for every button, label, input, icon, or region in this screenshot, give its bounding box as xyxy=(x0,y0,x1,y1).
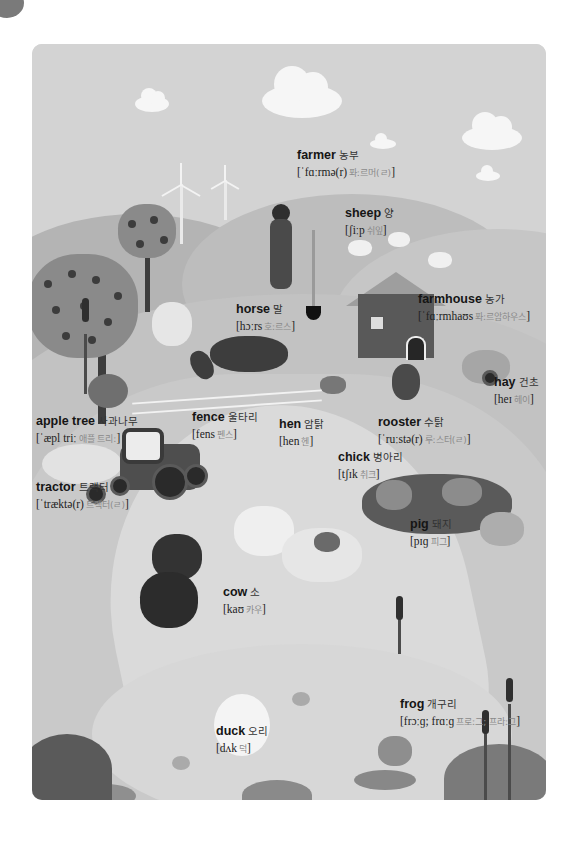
label-farmer: farmer농부 [ˈfɑːrmə(r)퐈ː르머(ㄹ)] xyxy=(297,146,395,178)
label-rooster: rooster수탉 [ˈruːstə(r)루ː스터(ㄹ)] xyxy=(378,413,471,445)
korean-meaning: 암탉 xyxy=(304,418,324,430)
korean-meaning: 농가 xyxy=(485,293,505,305)
word: hay xyxy=(494,375,516,389)
korean-meaning: 말 xyxy=(273,303,283,315)
word: farmhouse xyxy=(418,292,482,306)
korean-pronunciation: 취크 xyxy=(360,470,376,480)
bracket: ] xyxy=(530,393,534,405)
korean-meaning: 수탉 xyxy=(424,416,444,428)
word: hen xyxy=(279,417,301,431)
word: frog xyxy=(400,697,424,711)
label-chick: chick병아리 [tʃɪk취크] xyxy=(338,448,403,480)
word: apple tree xyxy=(36,414,95,428)
korean-meaning: 돼지 xyxy=(432,518,452,530)
korean-meaning: 건초 xyxy=(519,376,539,388)
korean-pronunciation: 루ː스터(ㄹ) xyxy=(425,435,467,445)
bracket: ] xyxy=(247,742,251,754)
korean-pronunciation: 카우 xyxy=(246,605,262,615)
label-cow: cow소 [kaʊ카우] xyxy=(223,583,266,615)
word: sheep xyxy=(345,206,381,220)
label-farmhouse: farmhouse농가 [ˈfɑːrmhaʊs퐈ː르암하우스] xyxy=(418,290,530,322)
bracket: ] xyxy=(516,715,520,727)
ipa: [pɪɡ xyxy=(410,535,429,547)
word: horse xyxy=(236,302,270,316)
ipa: [frɔːɡ; frɑːɡ xyxy=(400,715,454,727)
label-horse: horse말 [hɔːrs호ː르스] xyxy=(236,300,295,332)
word: fence xyxy=(192,410,225,424)
ipa: [ˈruːstə(r) xyxy=(378,433,423,445)
word: rooster xyxy=(378,415,421,429)
ipa: [fens xyxy=(192,428,215,440)
bracket: ] xyxy=(526,310,530,322)
label-tractor: tractor트랙터 [ˈtræktə(r)트랙터(ㄹ)] xyxy=(36,478,129,510)
korean-meaning: 병아리 xyxy=(373,451,403,463)
korean-pronunciation: 트랙터(ㄹ) xyxy=(86,500,125,510)
korean-pronunciation: 프로ː그; 프라ː그 xyxy=(456,717,516,727)
bracket: ] xyxy=(291,320,295,332)
korean-meaning: 개구리 xyxy=(427,698,457,710)
bracket: ] xyxy=(116,432,120,444)
word: duck xyxy=(216,724,245,738)
korean-pronunciation: 호ː르스 xyxy=(264,322,291,332)
bracket: ] xyxy=(125,498,129,510)
ipa: [ˈfɑːrmhaʊs xyxy=(418,310,473,322)
word: cow xyxy=(223,585,247,599)
korean-meaning: 울타리 xyxy=(228,411,258,423)
korean-pronunciation: 쉬잎 xyxy=(367,226,383,236)
ipa: [hɔːrs xyxy=(236,320,262,332)
word: farmer xyxy=(297,148,336,162)
bracket: ] xyxy=(391,166,395,178)
ipa: [heɪ xyxy=(494,393,512,405)
korean-meaning: 소 xyxy=(250,586,260,598)
korean-pronunciation: 퐈ː르머(ㄹ) xyxy=(349,168,391,178)
bracket: ] xyxy=(467,433,471,445)
label-frog: frog개구리 [frɔːɡ; frɑːɡ프로ː그; 프라ː그] xyxy=(400,695,520,727)
bracket: ] xyxy=(383,224,387,236)
ipa: [ʃiːp xyxy=(345,224,365,236)
vocabulary-labels: farmer농부 [ˈfɑːrmə(r)퐈ː르머(ㄹ)] sheep양 [ʃiː… xyxy=(0,0,575,841)
label-sheep: sheep양 [ʃiːp쉬잎] xyxy=(345,204,394,236)
korean-pronunciation: 덕 xyxy=(239,744,247,754)
korean-meaning: 오리 xyxy=(248,725,268,737)
label-pig: pig돼지 [pɪɡ피그] xyxy=(410,515,452,547)
word: tractor xyxy=(36,480,76,494)
word: pig xyxy=(410,517,429,531)
ipa: [tʃɪk xyxy=(338,468,358,480)
korean-meaning: 사과나무 xyxy=(98,415,138,427)
ipa: [ˈfɑːrmə(r) xyxy=(297,166,347,178)
ipa: [ˈtræktə(r) xyxy=(36,498,84,510)
bracket: ] xyxy=(447,535,451,547)
korean-pronunciation: 펜스 xyxy=(217,430,233,440)
korean-pronunciation: 퐈ː르암하우스 xyxy=(475,312,526,322)
label-duck: duck오리 [dʌk덕] xyxy=(216,722,268,754)
label-hen: hen암탉 [hen헨] xyxy=(279,415,324,447)
bracket: ] xyxy=(376,468,380,480)
korean-pronunciation: 피그 xyxy=(431,537,447,547)
label-fence: fence울타리 [fens펜스] xyxy=(192,408,258,440)
label-apple-tree: apple tree사과나무 [ˈæpl triː애플 트리ː] xyxy=(36,412,138,444)
ipa: [kaʊ xyxy=(223,603,244,615)
label-hay: hay건초 [heɪ헤이] xyxy=(494,373,539,405)
ipa: [dʌk xyxy=(216,742,237,754)
korean-meaning: 농부 xyxy=(339,149,359,161)
bracket: ] xyxy=(309,435,313,447)
ipa: [hen xyxy=(279,435,299,447)
korean-pronunciation: 헤이 xyxy=(514,395,530,405)
korean-meaning: 양 xyxy=(384,207,394,219)
word: chick xyxy=(338,450,370,464)
bracket: ] xyxy=(262,603,266,615)
ipa: [ˈæpl triː xyxy=(36,432,77,444)
korean-meaning: 트랙터 xyxy=(79,481,109,493)
korean-pronunciation: 애플 트리ː xyxy=(79,434,117,444)
bracket: ] xyxy=(233,428,237,440)
